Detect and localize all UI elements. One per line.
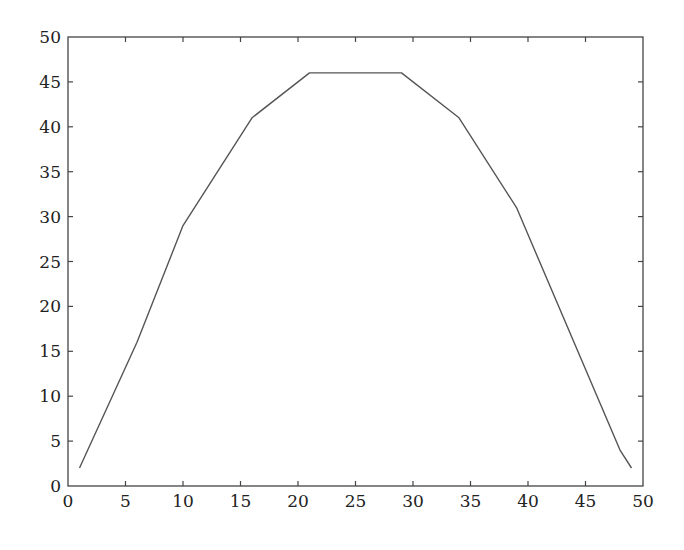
y-tick-label: 45 [39,72,61,92]
y-tick-label: 30 [39,207,61,227]
x-tick-label: 30 [402,491,424,511]
x-tick-label: 25 [345,491,367,511]
x-tick-label: 40 [517,491,539,511]
x-tick-label: 35 [460,491,482,511]
x-tick-label: 10 [172,491,194,511]
y-tick-label: 10 [39,386,61,406]
x-tick-label: 15 [230,491,252,511]
y-tick-label: 5 [50,431,61,451]
plot-frame [68,37,643,486]
y-tick-label: 15 [39,341,61,361]
x-tick-label: 5 [120,491,131,511]
line-chart: 05101520253035404550 0510152025303540455… [0,0,684,550]
y-tick-label: 20 [39,296,61,316]
y-tick-label: 50 [39,27,61,47]
x-tick-label: 20 [287,491,309,511]
x-tick-label: 45 [575,491,597,511]
x-tick-label: 50 [632,491,654,511]
axis-ticks [68,37,643,486]
x-axis-tick-labels: 05101520253035404550 [63,491,654,511]
y-tick-label: 40 [39,117,61,137]
y-tick-label: 25 [39,252,61,272]
data-line [80,73,632,468]
y-tick-label: 0 [50,476,61,496]
y-axis-tick-labels: 05101520253035404550 [39,27,61,496]
y-tick-label: 35 [39,162,61,182]
x-tick-label: 0 [63,491,74,511]
